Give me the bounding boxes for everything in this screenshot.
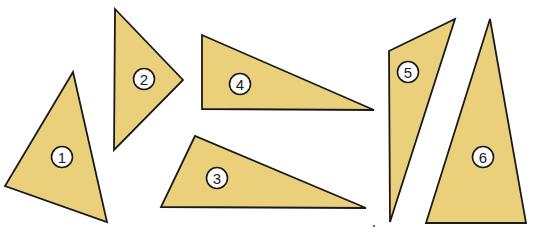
triangle-shape <box>161 136 366 208</box>
triangle-shape <box>5 72 107 222</box>
diagram-svg: 123456 <box>0 0 533 232</box>
triangle-shape <box>202 35 374 110</box>
triangle-3: 3 <box>161 136 366 208</box>
triangle-number: 1 <box>58 149 66 166</box>
triangle-number: 2 <box>140 71 148 88</box>
triangle-number: 3 <box>213 170 221 187</box>
triangle-number: 4 <box>236 76 244 93</box>
stray-dot <box>373 225 375 227</box>
triangle-4: 4 <box>202 35 374 110</box>
triangle-number: 6 <box>479 149 487 166</box>
triangles-diagram: 123456 1 2 3 4 5 6 <box>0 0 533 232</box>
triangle-number: 5 <box>404 64 412 81</box>
triangle-2: 2 <box>114 9 183 150</box>
triangle-1: 1 <box>5 72 107 222</box>
